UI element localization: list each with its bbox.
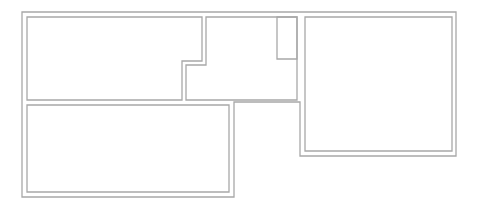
room-top-left bbox=[27, 17, 202, 100]
room-bottom-left bbox=[27, 105, 229, 192]
closet bbox=[277, 17, 297, 59]
room-right bbox=[305, 17, 452, 151]
floor-plan bbox=[0, 0, 480, 205]
